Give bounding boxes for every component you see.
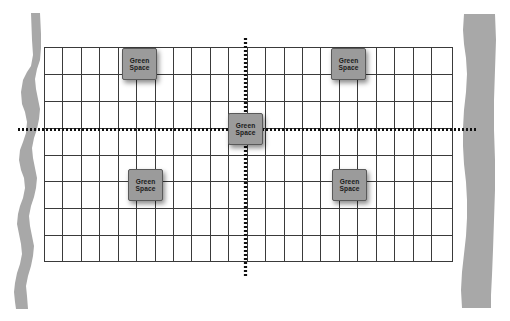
green-space-label-line1: Green [236, 122, 256, 129]
green-space-label-line2: Space [339, 64, 359, 71]
green-space-label-line2: Space [136, 185, 156, 192]
green-space-label-line1: Green [136, 178, 156, 185]
green-space-label-line1: Green [340, 178, 360, 185]
green-space-marker-top-left[interactable]: Green Space [122, 48, 157, 80]
green-space-label-line2: Space [340, 185, 360, 192]
vertical-dashed-axis [243, 38, 248, 276]
green-space-label-line1: Green [339, 57, 359, 64]
diagram-canvas: Green Space Green Space Green Space Gree… [0, 0, 510, 321]
street-grid [44, 47, 453, 262]
green-space-label-line1: Green [130, 57, 150, 64]
right-boundary-band [450, 0, 510, 321]
green-space-marker-center[interactable]: Green Space [228, 113, 263, 145]
green-space-marker-bottom-left[interactable]: Green Space [128, 169, 163, 201]
green-space-marker-bottom-right[interactable]: Green Space [332, 169, 367, 201]
green-space-label-line2: Space [236, 129, 256, 136]
green-space-label-line2: Space [130, 64, 150, 71]
green-space-marker-top-right[interactable]: Green Space [331, 48, 366, 80]
